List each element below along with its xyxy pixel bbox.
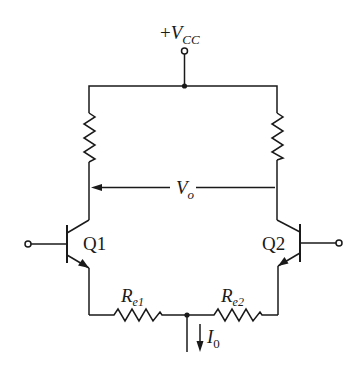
re2-label: Re2 [220, 285, 244, 309]
q1-emitter-arrow-icon [78, 259, 89, 268]
circuit-diagram: +VCC Vo Q1 Q2 Re1 Re2 [0, 0, 363, 375]
transistor-q1: Q1 [25, 220, 106, 268]
q1-base-terminal[interactable] [25, 241, 31, 247]
vcc-label: +VCC [160, 22, 200, 47]
top-rail-wire [89, 86, 277, 113]
q2-base-terminal[interactable] [336, 240, 342, 246]
emitter-resistors-wire [89, 309, 278, 321]
q1-label: Q1 [83, 233, 106, 254]
vo-arrowhead [91, 184, 102, 191]
vcc-terminal [182, 48, 188, 54]
q2-label: Q2 [262, 233, 285, 254]
vo-label: Vo [176, 177, 195, 202]
transistor-q2: Q2 [262, 220, 342, 266]
q2-collector [277, 220, 300, 232]
i0-label: I0 [206, 326, 220, 351]
collector-resistor-right [272, 113, 283, 160]
collector-resistor-left [84, 113, 95, 162]
q1-collector [67, 220, 89, 233]
re1-label: Re1 [120, 285, 144, 309]
q2-emitter-arrow-icon [278, 257, 289, 266]
i0-arrow-icon [197, 341, 204, 352]
